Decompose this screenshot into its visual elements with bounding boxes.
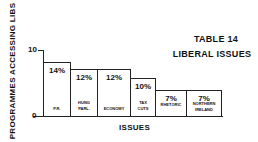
chart-title: TABLE 14 LIBERAL ISSUES <box>176 32 256 62</box>
bar-category: HUNG PARL. <box>71 100 97 112</box>
bar-category: P.R. <box>44 106 70 112</box>
y-tick-10 <box>38 50 43 51</box>
bar-value: 14% <box>44 66 70 75</box>
bar-value: 12% <box>98 73 130 82</box>
bar-category: ECONOMY <box>98 106 130 112</box>
bar-value: 10% <box>131 82 155 91</box>
x-axis <box>33 116 223 117</box>
title-line: TABLE 14 <box>176 32 256 47</box>
subtitle-line: LIBERAL ISSUES <box>168 47 256 62</box>
bar-category: RHETORIC <box>156 102 186 108</box>
bar-pr: 14% P.R. <box>43 62 71 116</box>
bar-economy: 12% ECONOMY <box>97 69 131 116</box>
y-tick-label-0: 0 <box>32 111 36 120</box>
y-tick-label-10: 10 <box>28 45 37 54</box>
bar-hung-parl: 12% HUNG PARL. <box>70 69 98 116</box>
x-axis-label: ISSUES <box>119 123 150 132</box>
bar-category: TAX CUTS <box>131 100 155 112</box>
bar-value: 12% <box>71 73 97 82</box>
bar-tax-cuts: 10% TAX CUTS <box>130 78 156 116</box>
bar-rhetoric: 7% RHETORIC <box>155 90 187 116</box>
bar-category: NORTHERN IRELAND <box>187 101 221 113</box>
y-axis-label: PROGRAMMES ACCESSING LIBS <box>8 3 17 140</box>
bar-northern-ireland: 7% NORTHERN IRELAND <box>186 90 222 116</box>
